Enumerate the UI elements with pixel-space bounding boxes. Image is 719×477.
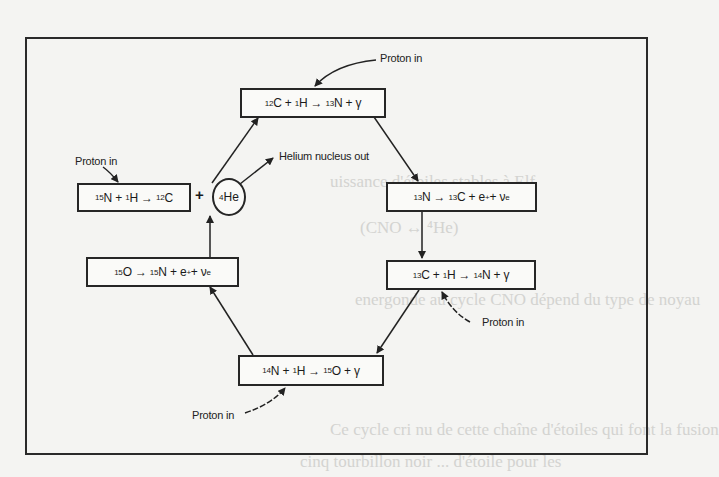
reaction-box-15n-1h: 15N + 1H → 12C	[77, 183, 191, 212]
proton-in-label-top: Proton in	[380, 52, 422, 64]
mass-number: 13	[326, 99, 335, 108]
reaction-text: C	[164, 191, 172, 205]
reaction-text: N →	[422, 190, 445, 204]
mass-number: 13	[413, 271, 422, 280]
reaction-text: H →	[297, 364, 320, 378]
reaction-text: H →	[299, 96, 322, 110]
mass-number: 14	[262, 366, 271, 375]
mass-number: 12	[265, 99, 274, 108]
reaction-box-15o-decay: 15O → 15N + e+ + νe	[86, 257, 239, 287]
reaction-text: C + e	[457, 190, 485, 204]
proton-in-label-right: Proton in	[482, 316, 524, 328]
proton-in-label-left: Proton in	[75, 155, 117, 167]
mass-number: 13	[449, 193, 458, 202]
reaction-text: C +	[421, 268, 439, 282]
plus-sign: +	[195, 186, 204, 203]
neutrino-flavor: e	[505, 193, 509, 202]
reaction-text: O + γ	[332, 364, 360, 378]
reaction-text: N +	[271, 364, 289, 378]
reaction-text: C +	[273, 96, 291, 110]
mass-number: 15	[114, 268, 123, 277]
mass-number: 15	[95, 193, 104, 202]
mass-number: 15	[323, 366, 332, 375]
mass-number: 14	[474, 271, 483, 280]
mass-number: 13	[413, 193, 422, 202]
proton-in-label-bottom: Proton in	[192, 409, 234, 421]
reaction-text: H →	[129, 191, 152, 205]
reaction-box-13n-decay: 13N → 13C + e+ + νe	[386, 182, 537, 212]
reaction-box-12c-1h: 12C + 1H → 13N + γ	[240, 88, 386, 118]
reaction-text: O →	[123, 265, 147, 279]
reaction-text: N +	[104, 191, 122, 205]
helium-symbol: He	[224, 190, 239, 204]
neutrino-flavor: e	[207, 268, 211, 277]
reaction-text: N + γ	[482, 268, 509, 282]
reaction-text: + ν	[490, 190, 506, 204]
helium-nucleus-circle: 4He	[212, 178, 246, 216]
mass-number: 12	[156, 193, 165, 202]
reaction-text: N + e	[158, 265, 186, 279]
reaction-text: N + γ	[334, 96, 361, 110]
reaction-text: + ν	[191, 265, 207, 279]
mass-number: 15	[150, 268, 159, 277]
reaction-box-14n-1h: 14N + 1H → 15O + γ	[238, 355, 384, 386]
reaction-text: H →	[447, 268, 470, 282]
reaction-box-13c-1h: 13C + 1H → 14N + γ	[386, 260, 536, 290]
helium-out-label: Helium nucleus out	[279, 150, 369, 162]
